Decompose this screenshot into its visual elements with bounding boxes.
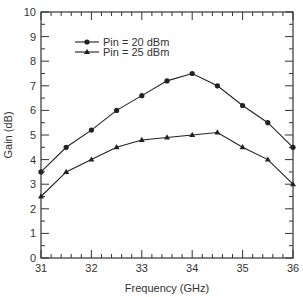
- circle-marker-icon: [240, 103, 245, 108]
- circle-marker-icon: [164, 78, 169, 83]
- circle-marker-icon: [89, 127, 94, 132]
- y-tick-label: 8: [30, 55, 36, 67]
- series-line: [41, 133, 293, 197]
- x-tick-label: 36: [287, 262, 299, 274]
- y-axis-title: Gain (dB): [2, 111, 14, 158]
- x-axis-title: Frequency (GHz): [125, 282, 209, 294]
- circle-marker-icon: [215, 83, 220, 88]
- legend-label: Pin = 25 dBm: [103, 46, 169, 58]
- y-tick-label: 7: [30, 80, 36, 92]
- circle-marker-icon: [290, 145, 295, 150]
- circle-marker-icon: [38, 169, 43, 174]
- x-tick-label: 31: [35, 262, 47, 274]
- triangle-marker-icon: [214, 129, 220, 134]
- circle-marker-icon: [114, 108, 119, 113]
- x-tick-label: 32: [85, 262, 97, 274]
- legend-item-2: Pin = 25 dBm: [75, 46, 169, 58]
- data-series: [38, 71, 296, 199]
- y-tick-label: 2: [30, 203, 36, 215]
- legend: Pin = 20 dBmPin = 25 dBm: [75, 36, 169, 58]
- circle-marker-icon: [265, 120, 270, 125]
- circle-marker-icon: [84, 39, 89, 44]
- x-tick-label: 35: [236, 262, 248, 274]
- series-line: [41, 74, 293, 172]
- circle-marker-icon: [190, 71, 195, 76]
- circle-marker-icon: [64, 145, 69, 150]
- y-tick-label: 6: [30, 104, 36, 116]
- y-tick-label: 3: [30, 178, 36, 190]
- y-tick-label: 1: [30, 227, 36, 239]
- y-tick-label: 4: [30, 154, 36, 166]
- y-tick-label: 9: [30, 31, 36, 43]
- y-tick-label: 0: [30, 252, 36, 264]
- y-tick-label: 10: [24, 6, 36, 18]
- x-tick-label: 33: [136, 262, 148, 274]
- y-tick-label: 5: [30, 129, 36, 141]
- triangle-marker-icon: [84, 49, 90, 54]
- series-1: [38, 71, 295, 175]
- circle-marker-icon: [139, 93, 144, 98]
- gain-vs-frequency-chart: 313233343536012345678910 Pin = 20 dBmPin…: [0, 0, 303, 297]
- x-tick-label: 34: [186, 262, 198, 274]
